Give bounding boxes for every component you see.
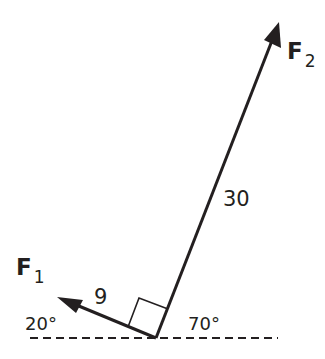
label-f1: F1 [16, 256, 45, 279]
angle-f1: 20° [25, 315, 57, 333]
vector-f2 [156, 22, 281, 338]
magnitude-f2: 30 [223, 189, 250, 210]
arrowhead-f2-icon [264, 22, 281, 48]
angle-f2: 70° [188, 315, 220, 333]
label-f2: F2 [287, 40, 316, 63]
arrowhead-f1-icon [57, 297, 83, 313]
force-diagram-canvas [0, 0, 325, 359]
magnitude-f1: 9 [94, 287, 107, 308]
